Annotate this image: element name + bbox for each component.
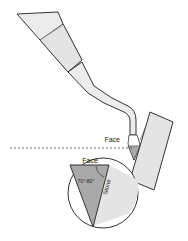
curette-diagram: Face Face 70°-80° Stone — [0, 0, 188, 241]
face-label-top: Face — [104, 136, 120, 143]
face-label-inset: Face — [82, 157, 98, 164]
instrument-shank — [68, 62, 136, 135]
angle-label: 70°-80° — [78, 178, 95, 184]
